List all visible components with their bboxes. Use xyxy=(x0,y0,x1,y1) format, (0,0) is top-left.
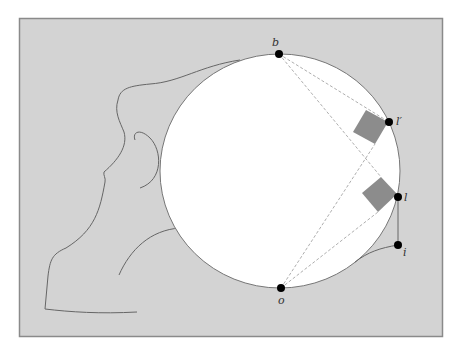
eye-diagram: b l′ l i o xyxy=(0,0,457,354)
label-i: i xyxy=(403,246,407,259)
point-l xyxy=(394,193,402,201)
eye-globe xyxy=(160,54,400,288)
label-l: l xyxy=(404,191,408,204)
point-l-prime xyxy=(385,118,393,126)
label-o: o xyxy=(278,294,285,307)
point-b xyxy=(275,50,283,58)
point-o xyxy=(277,284,285,292)
label-l-prime: l′ xyxy=(396,115,403,128)
point-i xyxy=(394,241,402,249)
label-b: b xyxy=(272,36,279,49)
